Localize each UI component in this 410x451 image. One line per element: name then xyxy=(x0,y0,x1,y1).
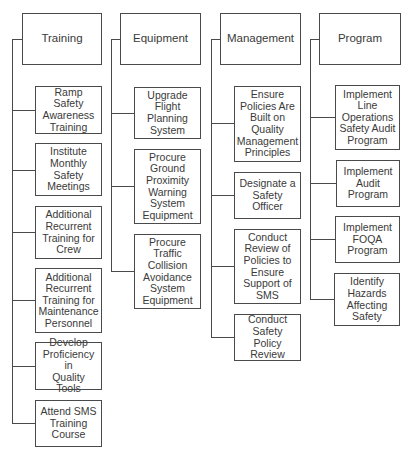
connector-line xyxy=(111,271,134,272)
task-box: Conduct Safety Policy Review xyxy=(234,314,301,361)
connector-line xyxy=(111,39,120,40)
connector-line xyxy=(211,195,234,196)
connector-line xyxy=(310,39,319,40)
connector-line xyxy=(12,300,35,301)
task-box: Identify Hazards Affecting Safety xyxy=(334,273,400,326)
connector-line xyxy=(211,123,234,124)
task-box: Additional Recurrent Training for Crew xyxy=(35,206,102,259)
connector-line xyxy=(12,366,35,367)
org-chart-diagram: TrainingRamp Safety Awareness TrainingIn… xyxy=(0,0,410,451)
task-box: Procure Traffic Collision Avoidance Syst… xyxy=(134,234,201,309)
connector-line xyxy=(12,423,35,424)
task-box: Additional Recurrent Training for Mainte… xyxy=(35,268,102,333)
connector-line xyxy=(111,113,134,114)
connector-line xyxy=(310,239,335,240)
connector-line xyxy=(310,117,335,118)
category-header-equipment: Equipment xyxy=(120,13,201,65)
task-box: Implement FOQA Program xyxy=(335,216,400,263)
connector-line xyxy=(211,39,220,40)
task-box: Ensure Policies Are Built on Quality Man… xyxy=(234,86,301,162)
task-box: Attend SMS Training Course xyxy=(35,400,102,447)
task-box: Institute Monthly Safety Meetings xyxy=(35,143,102,196)
connector-line xyxy=(310,299,334,300)
task-box: Develop Proficiency in Quality Tools xyxy=(35,342,102,390)
connector-line xyxy=(12,232,35,233)
task-box: Implement Line Operations Safety Audit P… xyxy=(335,85,400,150)
task-box: Ramp Safety Awareness Training xyxy=(35,86,102,134)
spine-line xyxy=(310,39,311,300)
connector-line xyxy=(211,266,234,267)
task-box: Upgrade Flight Planning System xyxy=(134,87,201,139)
connector-line xyxy=(12,170,35,171)
connector-line xyxy=(12,39,22,40)
task-box: Procure Ground Proximity Warning System … xyxy=(134,149,201,224)
spine-line xyxy=(211,39,212,338)
connector-line xyxy=(12,110,35,111)
category-header-management: Management xyxy=(220,13,301,65)
connector-line xyxy=(111,186,134,187)
category-header-training: Training xyxy=(22,13,102,65)
task-box: Implement Audit Program xyxy=(336,160,400,207)
task-box: Designate a Safety Officer xyxy=(234,172,301,219)
connector-line xyxy=(211,337,234,338)
task-box: Conduct Review of Policies to Ensure Sup… xyxy=(234,229,301,304)
category-header-program: Program xyxy=(319,13,401,65)
spine-line xyxy=(111,39,112,272)
connector-line xyxy=(310,183,336,184)
